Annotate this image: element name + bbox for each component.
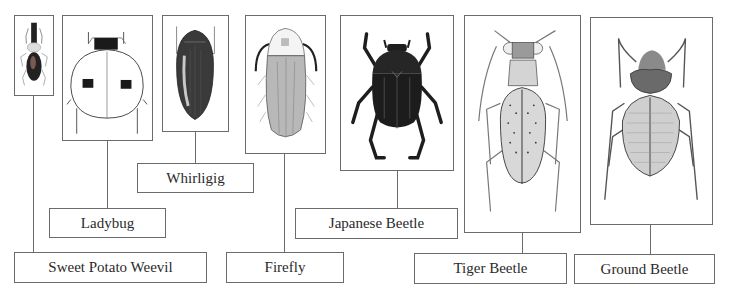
- ground-beetle-illustration-icon: [591, 18, 712, 224]
- sweet-potato-weevil-image-frame: [14, 15, 54, 96]
- whirligig-image-frame: [162, 15, 229, 132]
- whirligig-connector: [195, 132, 196, 163]
- firefly-connector: [284, 154, 285, 252]
- tiger-beetle-image-frame: [464, 15, 581, 233]
- japanese-beetle-connector: [397, 171, 398, 208]
- sweet-potato-weevil-connector: [33, 96, 34, 252]
- tiger-beetle-connector: [522, 233, 523, 253]
- ground-beetle-connector: [650, 225, 651, 254]
- japanese-beetle-image-frame: [340, 15, 454, 171]
- ladybug-image-frame: [62, 15, 153, 141]
- whirligig-label: Whirligig: [137, 163, 254, 193]
- firefly-illustration-icon: [246, 16, 325, 153]
- ground-beetle-label: Ground Beetle: [574, 254, 715, 284]
- sweet-potato-weevil-label: Sweet Potato Weevil: [14, 252, 207, 283]
- ladybug-connector: [107, 141, 108, 208]
- japanese-beetle-illustration-icon: [341, 16, 453, 170]
- japanese-beetle-label: Japanese Beetle: [295, 208, 458, 239]
- ladybug-label: Ladybug: [49, 208, 166, 238]
- ground-beetle-image-frame: [590, 17, 713, 225]
- firefly-image-frame: [245, 15, 326, 154]
- tiger-beetle-illustration-icon: [465, 16, 580, 232]
- ladybug-illustration-icon: [63, 16, 152, 140]
- tiger-beetle-label: Tiger Beetle: [414, 253, 567, 284]
- firefly-label: Firefly: [226, 252, 344, 283]
- whirligig-beetle-illustration-icon: [163, 16, 228, 131]
- weevil-illustration-icon: [15, 16, 53, 95]
